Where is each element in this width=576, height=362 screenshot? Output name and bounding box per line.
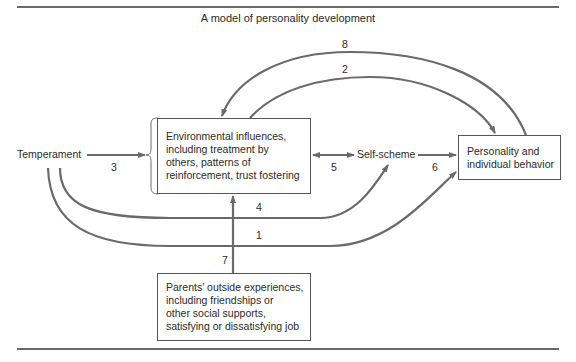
node-personality-text: Personality and individual behavior — [467, 145, 554, 171]
node-parents-text: Parents' outside experiences, including … — [166, 281, 303, 333]
edge-label-1: 1 — [256, 229, 262, 241]
node-self-scheme: Self-scheme — [357, 148, 415, 160]
edge-label-4: 4 — [256, 201, 262, 213]
edge-label-6: 6 — [432, 161, 438, 173]
node-personality: Personality and individual behavior — [458, 135, 561, 180]
edge-label-3: 3 — [111, 161, 117, 173]
node-parents: Parents' outside experiences, including … — [157, 273, 311, 341]
bottom-rule — [17, 348, 559, 350]
edge-label-8: 8 — [342, 38, 348, 50]
node-temperament: Temperament — [17, 148, 81, 160]
edge-label-5: 5 — [331, 161, 337, 173]
node-environment: Environmental influences, including trea… — [157, 118, 311, 194]
edge-label-7: 7 — [222, 254, 228, 266]
edge-label-2: 2 — [342, 63, 348, 75]
node-environment-text: Environmental influences, including trea… — [166, 130, 300, 182]
